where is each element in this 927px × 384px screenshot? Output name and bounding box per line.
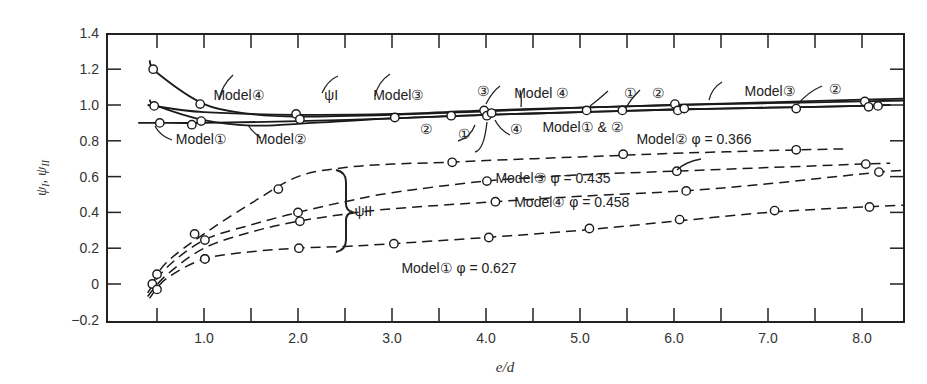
y-axis-tick-labels: −0.200.20.40.60.81.01.21.4 (71, 25, 99, 327)
data-point-marker (201, 236, 209, 244)
data-point-marker (792, 146, 800, 154)
data-point-marker (390, 240, 398, 248)
chart-annotation: ② (829, 81, 842, 97)
data-point-marker (585, 224, 593, 232)
data-point-marker (864, 103, 872, 111)
chart-annotation: ψI (324, 87, 338, 103)
y-tick-label: 1.4 (80, 25, 100, 41)
chart-annotation: Model① (176, 131, 227, 147)
data-point-marker (447, 112, 455, 120)
y-tick-label: 0 (91, 276, 99, 292)
data-point-marker (874, 102, 882, 110)
chart-annotation: Model② φ = 0.366 (636, 131, 751, 147)
data-point-marker (153, 285, 161, 293)
y-tick-label: 0.2 (80, 240, 100, 256)
x-tick-label: 8.0 (852, 330, 872, 346)
y-tick-label: 1.2 (80, 61, 100, 77)
data-point-marker (197, 117, 205, 125)
series-line-7 (150, 205, 905, 298)
chart-annotation: ψII (354, 203, 372, 219)
data-point-marker (619, 150, 627, 158)
arrow-icon (155, 126, 172, 140)
data-point-marker (188, 121, 196, 129)
x-tick-label: 5.0 (570, 330, 590, 346)
y-tick-label: −0.2 (71, 312, 99, 328)
data-point-marker (770, 206, 778, 214)
arrow-icon (495, 120, 510, 135)
data-point-marker (487, 109, 495, 117)
data-point-marker (682, 187, 690, 195)
x-tick-label: 3.0 (382, 330, 402, 346)
x-tick-label: 4.0 (476, 330, 496, 346)
x-tick-label: 6.0 (664, 330, 684, 346)
data-point-marker (865, 203, 873, 211)
data-point-marker (149, 65, 157, 73)
data-point-marker (391, 113, 399, 121)
y-axis-title: ψI, ψII (33, 159, 51, 196)
chart-annotation: Model① & ② (542, 119, 623, 135)
data-point-marker (491, 198, 499, 206)
data-point-marker (875, 168, 883, 176)
data-point-marker (190, 230, 198, 238)
y-tick-label: 0.4 (80, 204, 100, 220)
y-axis-title-text: ψI, ψII (33, 159, 51, 196)
x-tick-label: 7.0 (758, 330, 778, 346)
x-tick-label: 2.0 (288, 330, 308, 346)
data-point-marker (201, 255, 209, 263)
data-point-marker (156, 119, 164, 127)
data-point-marker (792, 104, 800, 112)
data-point-marker (296, 115, 304, 123)
data-point-marker (582, 106, 590, 114)
chart-annotation: Model④ φ = 0.458 (514, 194, 629, 210)
arrow-icon (475, 122, 487, 152)
data-point-marker (150, 102, 158, 110)
data-point-marker (618, 106, 626, 114)
arrow-icon (709, 82, 722, 100)
series-line-6 (148, 170, 905, 296)
data-point-marker (448, 158, 456, 166)
data-point-marker (153, 270, 161, 278)
data-point-marker (295, 244, 303, 252)
data-point-marker (675, 215, 683, 223)
chart-annotation: Model③ φ = 0.435 (495, 170, 610, 186)
data-point-marker (294, 208, 302, 216)
chart-annotation: Model② (256, 131, 307, 147)
y-tick-label: 1.0 (80, 97, 100, 113)
x-tick-label: 1.0 (194, 330, 214, 346)
data-point-marker (862, 160, 870, 168)
data-point-marker (196, 100, 204, 108)
data-point-marker (274, 185, 282, 193)
chart-annotation: ③ (477, 83, 490, 99)
chart-figure: 1.02.03.04.05.06.07.08.0 −0.200.20.40.60… (0, 0, 927, 384)
chart-annotation: Model① φ = 0.627 (401, 260, 516, 276)
data-point-marker (483, 177, 491, 185)
chart-annotation: ④ (510, 121, 523, 137)
y-tick-label: 0.6 (80, 169, 100, 185)
data-point-marker (680, 104, 688, 112)
data-point-marker (296, 217, 304, 225)
chart-annotation: ② (420, 121, 433, 137)
chart-annotation: ② (652, 85, 665, 101)
brace-icon (336, 170, 352, 252)
arrow-icon (590, 91, 608, 106)
chart-annotation: Model ④ (514, 85, 569, 101)
chart-annotation: ① (624, 85, 637, 101)
chart-annotation: Model③ (745, 83, 796, 99)
psi-ii-brace (336, 170, 352, 252)
chart-annotation: Model③ (373, 87, 424, 103)
x-axis-title: e/d (496, 359, 515, 375)
data-point-marker (485, 233, 493, 241)
x-axis-tick-labels: 1.02.03.04.05.06.07.08.0 (194, 330, 872, 346)
y-tick-label: 0.8 (80, 133, 100, 149)
